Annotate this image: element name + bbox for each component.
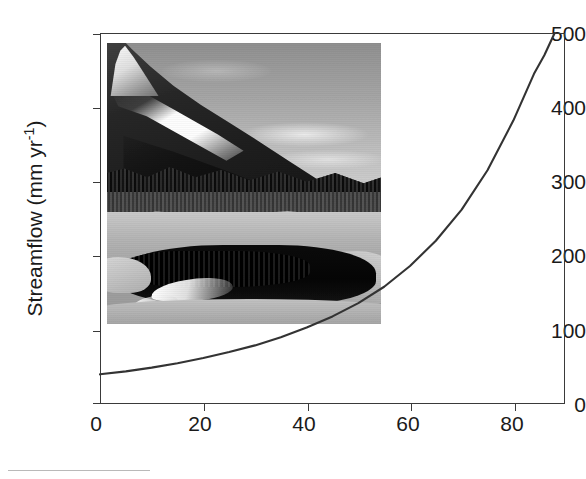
x-tick-label-0: 0	[66, 413, 126, 434]
y-axis-title-exponent: -1	[21, 128, 37, 141]
y-axis-title-suffix: )	[23, 121, 46, 128]
x-tick-label-60: 60	[378, 413, 438, 434]
x-tick-label-40: 40	[274, 413, 334, 434]
figure-panel: Streamflow (mm yr-1) 500 400 300 200 100…	[0, 0, 586, 479]
x-tick-mark-40	[308, 403, 309, 411]
x-tick-label-20: 20	[170, 413, 230, 434]
x-tick-mark-20	[204, 403, 205, 411]
x-tick-label-80: 80	[482, 413, 542, 434]
x-tick-mark-60	[411, 403, 412, 411]
y-axis-title-text: Streamflow (mm yr	[23, 140, 46, 316]
chart-plot-area	[100, 33, 565, 404]
y-axis-title: Streamflow (mm yr-1)	[22, 33, 48, 404]
caption-rule	[8, 470, 150, 471]
x-tick-mark-80	[515, 403, 516, 411]
series-line-streamflow	[100, 33, 555, 374]
